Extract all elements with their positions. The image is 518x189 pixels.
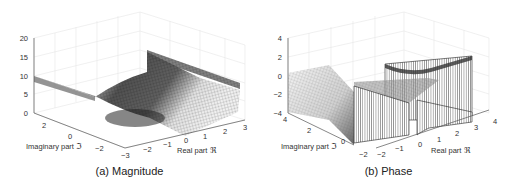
y-axis-label: Imaginary part ℑ	[26, 142, 82, 151]
z-tick: 20	[20, 34, 28, 43]
x-tick: 2	[223, 127, 227, 136]
y-tick: 0	[68, 132, 72, 141]
x-tick: 4	[493, 117, 497, 126]
y-tick: −3	[121, 151, 130, 160]
x-tick: 1	[203, 132, 207, 141]
x-tick: 2	[455, 129, 459, 138]
z-tick: 0	[24, 109, 28, 118]
phase-panel: 4 2 0 −2 −4 4 2 0 −2 Imaginary part ℑ −2…	[259, 0, 518, 189]
magnitude-caption: (a) Magnitude	[0, 165, 259, 177]
y-axis-label: Imaginary part ℑ	[281, 142, 337, 151]
x-tick: 0	[418, 140, 422, 149]
z-tick: −4	[273, 109, 282, 118]
y-tick: 2	[42, 121, 46, 130]
x-tick: 3	[243, 123, 247, 132]
y-tick: 4	[283, 115, 287, 124]
magnitude-mesh	[34, 50, 240, 136]
phase-mesh	[288, 56, 472, 145]
y-tick: 2	[307, 126, 311, 135]
x-tick: 1	[437, 135, 441, 144]
phase-surface-plot: 4 2 0 −2 −4 4 2 0 −2 Imaginary part ℑ −2…	[259, 0, 518, 165]
z-tick: 10	[20, 72, 28, 81]
z-tick: 4	[278, 34, 282, 43]
z-tick: 2	[278, 53, 282, 62]
magnitude-panel: 20 15 10 5 0 2 0 −2 −3 Imaginary part ℑ …	[0, 0, 259, 189]
x-tick: −1	[163, 140, 172, 149]
y-tick: 0	[341, 137, 345, 146]
x-tick: 0	[184, 136, 188, 145]
x-tick: −1	[395, 144, 404, 153]
y-tick: −2	[95, 144, 104, 153]
phase-caption: (b) Phase	[259, 165, 518, 177]
y-tick: −2	[359, 150, 368, 159]
z-axis: 20 15 10 5 0	[20, 34, 34, 118]
z-tick: 15	[20, 53, 28, 62]
magnitude-surface-plot: 20 15 10 5 0 2 0 −2 −3 Imaginary part ℑ …	[0, 0, 259, 165]
x-tick: 3	[474, 123, 478, 132]
z-tick: 5	[24, 90, 28, 99]
x-tick: −2	[377, 150, 386, 159]
x-axis-label: Real part ℜ	[431, 146, 471, 155]
z-axis: 4 2 0 −2 −4	[273, 34, 288, 118]
x-tick: −2	[143, 145, 152, 154]
z-tick: 0	[278, 72, 282, 81]
z-tick: −2	[273, 90, 282, 99]
x-axis-label: Real part ℜ	[177, 146, 217, 155]
